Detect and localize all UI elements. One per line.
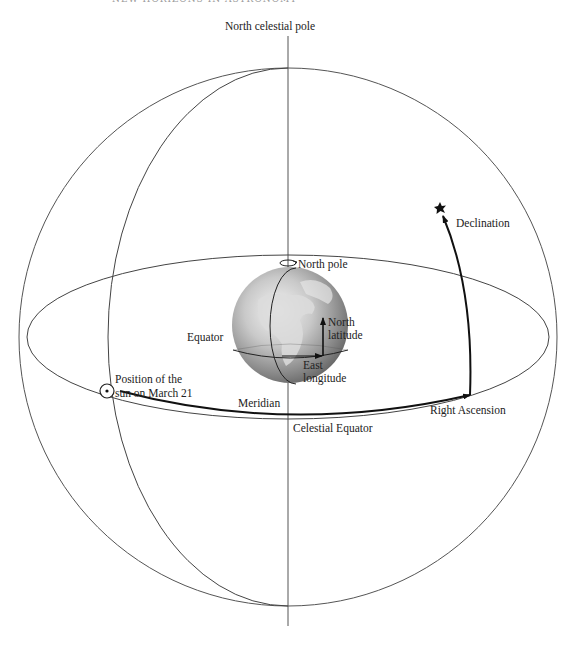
label-sun-position-1: Position of the bbox=[115, 373, 182, 385]
declination-arrow bbox=[443, 216, 470, 395]
label-north-latitude-2: latitude bbox=[328, 329, 363, 341]
label-declination: Declination bbox=[456, 217, 510, 229]
sun-icon bbox=[100, 384, 114, 398]
label-sun-position-2: sun on March 21 bbox=[115, 387, 193, 399]
label-meridian: Meridian bbox=[238, 397, 280, 409]
label-north-celestial-pole: North celestial pole bbox=[225, 20, 315, 33]
star-icon bbox=[434, 202, 446, 214]
label-equator: Equator bbox=[187, 331, 224, 344]
celestial-sphere-diagram: North celestial pole North pole Declinat… bbox=[0, 0, 575, 651]
label-north-latitude-1: North bbox=[328, 316, 355, 328]
label-celestial-equator: Celestial Equator bbox=[293, 422, 373, 435]
label-east-longitude-1: East bbox=[303, 359, 324, 371]
label-north-pole: North pole bbox=[298, 258, 348, 271]
label-east-longitude-2: longitude bbox=[303, 372, 346, 385]
label-right-ascension: Right Ascension bbox=[430, 404, 506, 417]
